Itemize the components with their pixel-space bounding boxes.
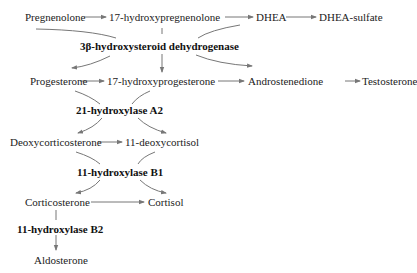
node-pregnenolone: Pregnenolone [25,11,85,23]
node-testosterone: Testosterone [362,75,417,87]
enzyme-3b-hsd: 3β-hydroxysteroid dehydrogenase [80,40,239,52]
node-corticosterone: Corticosterone [25,196,90,208]
node-11-deoxycortisol: 11-deoxycortisol [125,136,199,148]
node-dhea-sulfate: DHEA-sulfate [319,11,383,23]
node-dhea: DHEA [256,11,287,23]
node-17-hydroxypregnenolone: 17-hydroxypregnenolone [109,11,220,23]
enzyme-11-hydroxylase-b2: 11-hydroxylase B2 [17,223,103,235]
node-cortisol: Cortisol [148,196,183,208]
node-17-hydroxyprogesterone: 17-hydroxyprogesterone [107,75,215,87]
node-progesterone: Progesterone [30,75,87,87]
node-androstenedione: Androstenedione [248,75,323,87]
node-deoxycorticosterone: Deoxycorticosterone [10,136,102,148]
enzyme-11-hydroxylase-b1: 11-hydroxylase B1 [77,166,163,178]
enzyme-21-hydroxylase-a2: 21-hydroxylase A2 [76,104,163,116]
node-aldosterone: Aldosterone [34,254,88,266]
